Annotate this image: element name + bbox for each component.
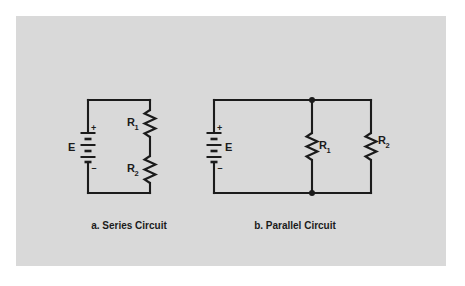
series-circuit-caption: a. Series Circuit: [91, 220, 167, 231]
parallel-circuit-caption: b. Parallel Circuit: [254, 220, 336, 231]
series-resistor-r1-subscript: 1: [135, 123, 139, 132]
parallel-battery-plus-sign: +: [217, 123, 222, 133]
circuit-diagram: + – E R 1 R 2 a. Series Circuit: [0, 0, 465, 286]
parallel-junction-dot-bottom: [309, 190, 315, 196]
series-resistor-r2-symbol: [145, 156, 156, 183]
series-circuit: + – E R 1 R 2 a. Series Circuit: [68, 100, 167, 231]
parallel-circuit: + – E R 1 R 2 b. Parallel Circuit: [207, 97, 390, 231]
figure-root: + – E R 1 R 2 a. Series Circuit: [0, 0, 465, 286]
parallel-source-label: E: [225, 141, 232, 153]
parallel-resistor-r2-subscript: 2: [386, 141, 390, 150]
series-source-label: E: [68, 141, 75, 153]
parallel-battery-minus-sign: –: [218, 163, 223, 173]
series-battery-symbol: [81, 133, 96, 162]
parallel-resistor-r2-symbol: [366, 133, 377, 160]
series-battery-plus-sign: +: [91, 123, 96, 133]
series-battery-minus-sign: –: [92, 163, 97, 173]
parallel-resistor-r1-symbol: [307, 133, 318, 160]
parallel-resistor-r1-subscript: 1: [327, 146, 331, 155]
parallel-junction-dot-top: [309, 97, 315, 103]
series-resistor-r1-symbol: [145, 110, 156, 137]
series-resistor-r2-subscript: 2: [135, 169, 139, 178]
parallel-battery-symbol: [207, 133, 222, 162]
